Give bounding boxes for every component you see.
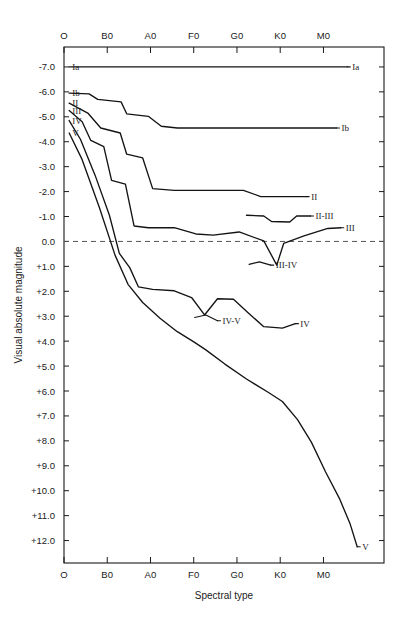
hr-diagram-figure: OOB0B0A0A0F0F0G0G0K0K0M0M0-7.0-6.0-5.0-4… xyxy=(0,0,404,618)
series-label-right-iiiiv: III-IV xyxy=(276,260,298,270)
hr-diagram-svg: OOB0B0A0A0F0F0G0G0K0K0M0M0-7.0-6.0-5.0-4… xyxy=(0,0,404,618)
series-labels: IaIaIbIbIIIIII-IIIIIIIIIIII-IVIVIVIV-VVV xyxy=(72,62,369,552)
y-tick-label-17: +10.0 xyxy=(31,485,55,496)
series-label-left-v: V xyxy=(72,128,79,138)
y-tick-label-0: -7.0 xyxy=(39,61,55,72)
curve-ib xyxy=(69,93,336,128)
x-tick-label-top-1: B0 xyxy=(101,30,113,41)
curve-iii xyxy=(69,111,341,266)
series-label-left-ia: Ia xyxy=(72,62,79,72)
y-tick-label-1: -6.0 xyxy=(39,86,55,97)
y-tick-label-10: +3.0 xyxy=(36,311,55,322)
curve-iv-v xyxy=(195,315,218,321)
series-label-right-iii: III xyxy=(346,223,355,233)
series-label-right-ia: Ia xyxy=(352,62,359,72)
axis-ticks xyxy=(64,47,384,563)
series-label-right-iv: IV xyxy=(300,319,310,329)
y-tick-label-8: +1.0 xyxy=(36,261,55,272)
y-tick-label-9: +2.0 xyxy=(36,286,55,297)
x-tick-label-bottom-3: F0 xyxy=(188,569,200,580)
curve-iii-iv xyxy=(249,262,271,265)
y-tick-label-15: +8.0 xyxy=(36,435,55,446)
x-tick-label-bottom-5: K0 xyxy=(274,569,286,580)
x-tick-label-top-4: G0 xyxy=(230,30,243,41)
x-tick-label-bottom-2: A0 xyxy=(144,569,156,580)
x-tick-label-top-5: K0 xyxy=(274,30,286,41)
x-tick-label-top-3: F0 xyxy=(188,30,200,41)
series-label-left-ib: Ib xyxy=(72,88,80,98)
y-tick-label-4: -3.0 xyxy=(39,161,55,172)
y-tick-label-3: -4.0 xyxy=(39,136,55,147)
series-label-right-ivv: IV-V xyxy=(223,316,242,326)
x-tick-label-top-2: A0 xyxy=(144,30,156,41)
series-label-right-v: V xyxy=(362,542,369,552)
plot-axes xyxy=(64,47,384,563)
y-tick-label-16: +9.0 xyxy=(36,460,55,471)
series-label-left-iii: III xyxy=(72,106,81,116)
y-tick-label-5: -2.0 xyxy=(39,186,55,197)
plot-frame xyxy=(64,47,384,563)
x-axis-title: Spectral type xyxy=(195,590,254,601)
curve-iv xyxy=(69,121,295,329)
x-tick-label-bottom-0: O xyxy=(60,569,68,580)
series-label-right-iiiii: II-III xyxy=(315,211,333,221)
y-tick-label-12: +5.0 xyxy=(36,361,55,372)
y-axis-title: Visual absolute magnitude xyxy=(13,246,24,364)
luminosity-class-curves xyxy=(69,67,357,547)
x-tick-label-top-0: O xyxy=(60,30,68,41)
y-tick-label-19: +12.0 xyxy=(31,535,55,546)
y-tick-label-7: 0.0 xyxy=(42,236,55,247)
x-tick-label-bottom-1: B0 xyxy=(101,569,113,580)
series-label-right-ib: Ib xyxy=(341,123,349,133)
x-tick-label-bottom-4: G0 xyxy=(230,569,243,580)
y-tick-label-18: +11.0 xyxy=(32,510,55,521)
y-tick-label-13: +6.0 xyxy=(36,386,55,397)
x-tick-label-bottom-6: M0 xyxy=(317,569,331,580)
y-tick-label-14: +7.0 xyxy=(36,410,55,421)
curve-ii-iii xyxy=(246,215,310,222)
y-tick-label-6: -1.0 xyxy=(39,211,55,222)
x-tick-label-top-6: M0 xyxy=(317,30,331,41)
series-label-left-iv: IV xyxy=(72,116,82,126)
y-tick-label-11: +4.0 xyxy=(36,336,55,347)
y-tick-label-2: -5.0 xyxy=(39,111,55,122)
series-label-right-ii: II xyxy=(311,192,317,202)
